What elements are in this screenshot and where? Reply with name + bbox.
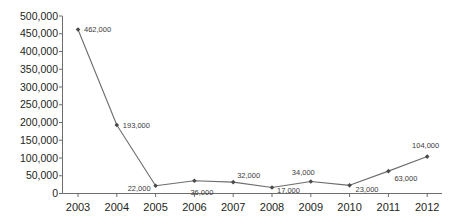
y-axis-tick-label: 400,000 [2, 46, 58, 57]
y-axis-tick-label: 350,000 [2, 64, 58, 75]
data-point-label: 34,000 [292, 168, 315, 177]
y-axis-tick-label: 0 [2, 188, 58, 199]
data-point-marker [347, 183, 352, 188]
y-axis-tick-label: 450,000 [2, 28, 58, 39]
data-point-marker [76, 27, 81, 32]
data-point-marker [231, 180, 236, 185]
x-axis-tick-label: 2012 [415, 201, 439, 213]
data-line-series-1 [78, 29, 427, 187]
y-axis-ticks [59, 16, 63, 194]
data-point-marker [425, 154, 430, 159]
data-point-marker [386, 169, 391, 174]
x-axis-ticks [78, 194, 427, 198]
x-axis-tick-label: 2003 [66, 201, 90, 213]
data-point-marker [309, 179, 314, 184]
chart-plot-area [0, 0, 452, 224]
data-point-label: 22,000 [128, 183, 151, 192]
data-point-label: 36,000 [190, 187, 213, 196]
y-axis-tick-label: 500,000 [2, 11, 58, 22]
y-axis-tick-label: 300,000 [2, 82, 58, 93]
x-axis-tick-label: 2010 [337, 201, 361, 213]
x-axis-tick-label: 2007 [221, 201, 245, 213]
x-axis-tick-label: 2004 [105, 201, 129, 213]
y-axis-tick-label: 200,000 [2, 117, 58, 128]
data-point-markers [76, 27, 430, 190]
x-axis-tick-label: 2006 [182, 201, 206, 213]
y-axis-tick-label: 100,000 [2, 153, 58, 164]
data-point-label: 462,000 [84, 25, 111, 34]
y-axis-tick-label: 50,000 [2, 170, 58, 181]
y-axis-tick-label: 150,000 [2, 135, 58, 146]
data-point-marker [192, 178, 197, 183]
y-axis-tick-labels: 050,000100,000150,000200,000250,000300,0… [0, 0, 58, 224]
line-chart: 050,000100,000150,000200,000250,000300,0… [0, 0, 452, 224]
data-point-label: 63,000 [394, 174, 417, 183]
x-axis-tick-label: 2011 [377, 201, 401, 213]
data-point-marker [270, 185, 275, 190]
data-point-label: 32,000 [237, 171, 260, 180]
data-point-label: 17,000 [277, 186, 300, 195]
data-point-label: 23,000 [356, 185, 379, 194]
y-axis-tick-label: 250,000 [2, 99, 58, 110]
x-axis-tick-label: 2008 [260, 201, 284, 213]
data-point-label: 104,000 [412, 140, 439, 149]
data-point-label: 193,000 [123, 120, 150, 129]
x-axis-tick-label: 2005 [143, 201, 167, 213]
x-axis-tick-label: 2009 [299, 201, 323, 213]
